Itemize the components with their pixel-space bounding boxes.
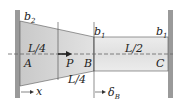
label-c: C	[156, 57, 165, 70]
label-b: B	[83, 57, 92, 70]
x-arrow-head-icon	[30, 90, 34, 94]
label-l4-top: L/4	[27, 42, 46, 55]
label-delta-b: δB	[108, 86, 120, 101]
label-a: A	[23, 57, 32, 70]
label-l2: L/2	[124, 42, 143, 55]
delta-arrow-head-icon	[102, 90, 106, 94]
label-b1-left: b1	[94, 25, 106, 40]
label-x: x	[36, 85, 43, 98]
label-b1-right: b1	[156, 25, 168, 40]
bar-diagram: b2 b1 b1 L/4 L/2 L/4 A P B C x δB	[0, 0, 181, 105]
label-l4-bottom: L/4	[67, 73, 86, 86]
label-b2: b2	[24, 10, 36, 25]
label-p: P	[65, 57, 74, 70]
